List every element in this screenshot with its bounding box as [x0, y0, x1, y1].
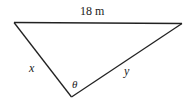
left-side [14, 23, 72, 98]
right-side [72, 24, 183, 98]
top-side [14, 23, 182, 24]
top-side-label: 18 m [80, 4, 105, 18]
triangle-diagram: 18 m x y θ [0, 0, 189, 104]
left-side-label: x [28, 61, 35, 75]
right-side-label: y [123, 64, 130, 78]
angle-label: θ [72, 78, 78, 90]
